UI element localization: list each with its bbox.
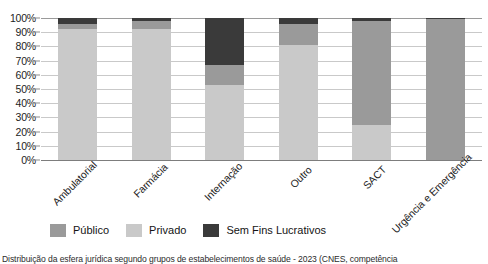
y-axis-tick-label: 60% xyxy=(16,70,36,80)
y-axis-tick-mark xyxy=(34,18,40,19)
figure-caption: Distribuição da esfera jurídica segundo … xyxy=(2,254,488,264)
x-axis-tick-label: Internação xyxy=(202,161,244,203)
stacked-bar[interactable] xyxy=(132,18,171,160)
y-axis-tick-mark xyxy=(34,145,40,146)
legend-label: Privado xyxy=(149,224,186,236)
legend-swatch-icon xyxy=(50,224,66,237)
legend-label: Público xyxy=(73,224,109,236)
y-axis-tick-label: 10% xyxy=(16,141,36,151)
y-axis-tick-mark xyxy=(34,32,40,33)
y-axis-tick-label: 20% xyxy=(16,127,36,137)
y-axis-tick-label: 50% xyxy=(16,84,36,94)
bar-segment[interactable] xyxy=(205,18,244,65)
bar-segment[interactable] xyxy=(132,29,171,160)
x-axis-tick-label: Outro xyxy=(288,164,314,190)
stacked-bar[interactable] xyxy=(205,18,244,160)
bar-segment[interactable] xyxy=(426,19,465,160)
bar-segment[interactable] xyxy=(352,125,391,161)
bar-slot xyxy=(262,18,336,160)
bar-slot xyxy=(115,18,189,160)
x-axis-tick-label: Farmácia xyxy=(132,162,170,200)
y-axis-tick-mark xyxy=(34,117,40,118)
y-axis-tick-mark xyxy=(34,60,40,61)
x-axis-tick-label: SACT xyxy=(361,164,388,191)
y-axis: 100%90%80%70%60%50%40%30%20%10%0% xyxy=(0,12,40,162)
legend-swatch-icon xyxy=(126,224,142,237)
legend-item[interactable]: Privado xyxy=(126,224,186,237)
y-axis-tick-label: 80% xyxy=(16,41,36,51)
x-axis-tick-label: Ambulatorial xyxy=(50,159,98,207)
legend-item[interactable]: Sem Fins Lucrativos xyxy=(203,224,326,237)
plot-area-wrapper: 100%90%80%70%60%50%40%30%20%10%0% Ambula… xyxy=(0,0,488,170)
stacked-bar[interactable] xyxy=(426,18,465,160)
legend-swatch-icon xyxy=(203,224,219,237)
stacked-bar[interactable] xyxy=(58,18,97,160)
stacked-bar[interactable] xyxy=(279,18,318,160)
legend-item[interactable]: Público xyxy=(50,224,109,237)
bar-segment[interactable] xyxy=(205,85,244,160)
bar-group xyxy=(41,18,482,160)
y-axis-tick-mark xyxy=(34,46,40,47)
stacked-bar[interactable] xyxy=(352,18,391,160)
y-axis-tick-mark xyxy=(34,160,40,161)
y-axis-tick-mark xyxy=(34,74,40,75)
bar-segment[interactable] xyxy=(58,29,97,160)
y-axis-tick-label: 40% xyxy=(16,98,36,108)
chart-legend: PúblicoPrivadoSem Fins Lucrativos xyxy=(50,222,350,238)
y-axis-tick-label: 100% xyxy=(10,13,36,23)
bar-segment[interactable] xyxy=(132,21,171,30)
x-axis-label-slot: Urgência e Emergência xyxy=(409,162,483,232)
y-axis-tick-label: 30% xyxy=(16,112,36,122)
y-axis-tick-mark xyxy=(34,103,40,104)
bar-slot xyxy=(41,18,115,160)
bar-slot xyxy=(188,18,262,160)
bar-segment[interactable] xyxy=(352,21,391,125)
plot-area xyxy=(41,18,482,161)
bar-segment[interactable] xyxy=(279,24,318,45)
bar-segment[interactable] xyxy=(279,45,318,160)
bar-segment[interactable] xyxy=(205,65,244,85)
bar-slot xyxy=(409,18,483,160)
legend-label: Sem Fins Lucrativos xyxy=(226,224,326,236)
y-axis-tick-label: 70% xyxy=(16,56,36,66)
bar-slot xyxy=(335,18,409,160)
y-axis-tick-mark xyxy=(34,131,40,132)
y-axis-tick-label: 90% xyxy=(16,27,36,37)
y-axis-tick-mark xyxy=(34,89,40,90)
